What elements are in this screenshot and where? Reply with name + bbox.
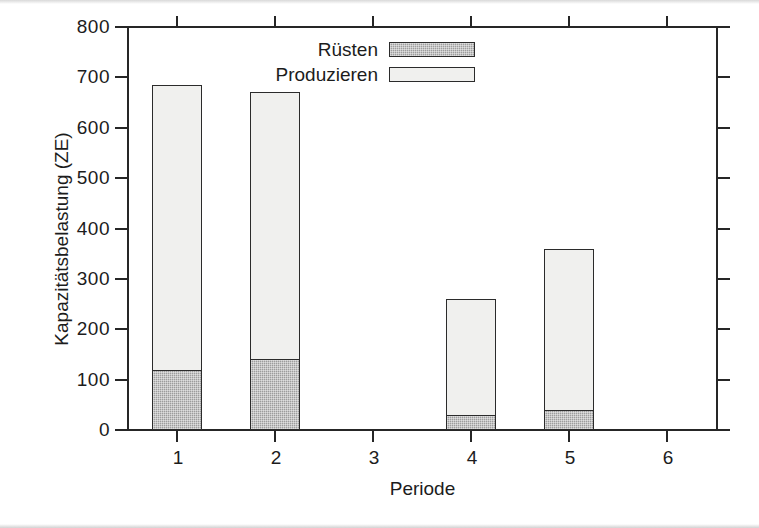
y-axis-title: Kapazitätsbelastung (ZE)	[51, 74, 73, 404]
legend-label-produzieren: Produzieren	[276, 65, 378, 85]
x-tick-2	[274, 431, 276, 442]
bar-produzieren-periode-5	[544, 249, 594, 411]
plot-area: 8007006005004003002001000 123456 Kapazit…	[0, 0, 759, 528]
bar-ruesten-periode-4	[446, 415, 496, 430]
x-tick-label-2: 2	[256, 447, 296, 469]
x-tick-1	[176, 431, 178, 442]
legend: Rüsten Produzieren	[185, 37, 475, 87]
y-tick-right-700	[718, 76, 730, 78]
y-tick-800	[115, 26, 127, 28]
legend-swatch-ruesten	[389, 42, 475, 57]
y-tick-500	[115, 177, 127, 179]
x-axis-title: Periode	[127, 478, 718, 500]
x-tick-label-4: 4	[452, 447, 492, 469]
x-tick-top-6	[666, 16, 668, 27]
y-tick-label-0: 0	[50, 420, 110, 439]
y-tick-right-800	[718, 26, 730, 28]
y-tick-200	[115, 328, 127, 330]
x-tick-top-4	[470, 16, 472, 27]
y-tick-right-0	[718, 429, 730, 431]
y-tick-right-100	[718, 379, 730, 381]
x-tick-top-2	[274, 16, 276, 27]
bar-produzieren-periode-1	[152, 85, 202, 371]
y-tick-right-500	[718, 177, 730, 179]
y-tick-700	[115, 76, 127, 78]
y-tick-right-600	[718, 127, 730, 129]
x-tick-6	[666, 431, 668, 442]
y-tick-right-200	[718, 328, 730, 330]
x-tick-top-1	[176, 16, 178, 27]
legend-swatch-produzieren	[389, 67, 475, 82]
bar-produzieren-periode-4	[446, 299, 496, 416]
x-tick-label-1: 1	[158, 447, 198, 469]
y-tick-300	[115, 278, 127, 280]
y-tick-100	[115, 379, 127, 381]
bar-ruesten-periode-1	[152, 370, 202, 430]
x-tick-4	[470, 431, 472, 442]
y-tick-right-400	[718, 228, 730, 230]
bar-ruesten-periode-2	[250, 359, 300, 430]
legend-row-produzieren: Produzieren	[185, 62, 475, 87]
legend-row-ruesten: Rüsten	[185, 37, 475, 62]
x-tick-label-3: 3	[354, 447, 394, 469]
y-tick-600	[115, 127, 127, 129]
y-tick-400	[115, 228, 127, 230]
legend-label-ruesten: Rüsten	[318, 40, 378, 60]
x-tick-label-5: 5	[550, 447, 590, 469]
y-tick-right-300	[718, 278, 730, 280]
chart-page: 8007006005004003002001000 123456 Kapazit…	[0, 0, 759, 528]
x-tick-3	[372, 431, 374, 442]
y-tick-label-800: 800	[50, 17, 110, 36]
y-tick-0	[115, 429, 127, 431]
bar-produzieren-periode-2	[250, 92, 300, 360]
bar-ruesten-periode-5	[544, 410, 594, 430]
x-tick-top-3	[372, 16, 374, 27]
x-tick-5	[568, 431, 570, 442]
x-axis-baseline	[127, 429, 718, 431]
x-tick-top-5	[568, 16, 570, 27]
y-axis-spine	[127, 26, 129, 431]
x-tick-label-6: 6	[648, 447, 688, 469]
x-axis-top-spine	[127, 26, 718, 28]
